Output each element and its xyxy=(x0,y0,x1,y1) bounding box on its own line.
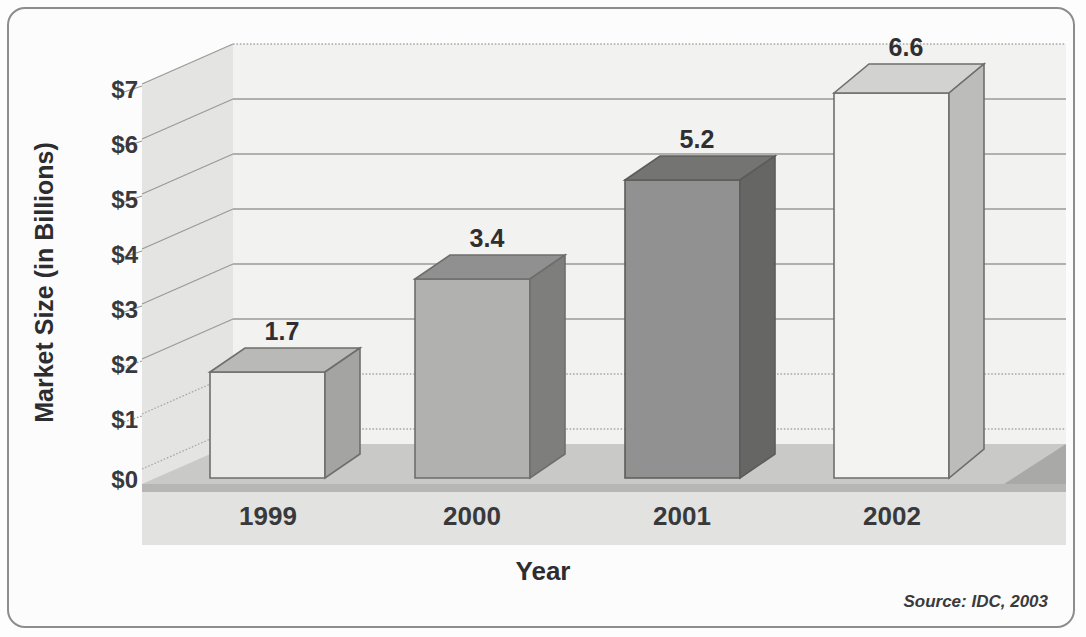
bar-1999[interactable] xyxy=(210,348,360,478)
bar-value-label-2001: 5.2 xyxy=(627,125,767,154)
chart-3d-scene xyxy=(0,0,1086,637)
y-tick-label: $1 xyxy=(48,408,138,432)
x-tick-label-2002: 2002 xyxy=(812,501,972,532)
y-tick-label: $3 xyxy=(48,298,138,322)
y-tick-label: $0 xyxy=(48,468,138,492)
x-tick-label-2001: 2001 xyxy=(602,501,762,532)
bar-2002[interactable] xyxy=(834,64,984,478)
y-tick-label: $4 xyxy=(48,243,138,267)
bar-value-label-2002: 6.6 xyxy=(836,33,976,62)
chart-screenshot: $7 $6 $5 $4 $3 $2 $1 $0 Market Size (in … xyxy=(0,0,1086,637)
x-tick-label-2000: 2000 xyxy=(392,501,552,532)
bar-value-label-2000: 3.4 xyxy=(417,224,557,253)
y-axis-ticks: $7 $6 $5 $4 $3 $2 $1 $0 xyxy=(0,0,138,637)
y-tick-label: $7 xyxy=(48,78,138,102)
bar-2001[interactable] xyxy=(625,156,775,478)
bar-2000[interactable] xyxy=(415,255,565,478)
y-tick-label: $5 xyxy=(48,188,138,212)
source-note: Source: IDC, 2003 xyxy=(903,592,1048,612)
y-axis-title: Market Size (in Billions) xyxy=(30,93,59,473)
y-tick-label: $6 xyxy=(48,133,138,157)
y-tick-label: $2 xyxy=(48,353,138,377)
bar-value-label-1999: 1.7 xyxy=(212,317,352,346)
x-axis-title: Year xyxy=(0,556,1086,587)
x-tick-label-1999: 1999 xyxy=(188,501,348,532)
